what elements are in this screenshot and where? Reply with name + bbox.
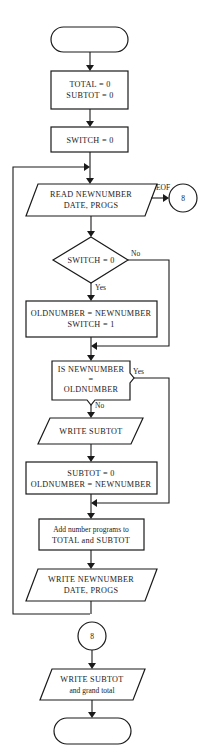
write-record-line1: WRITE NEWNUMBER — [48, 575, 134, 584]
arrow-head — [88, 712, 96, 718]
compare-no-label: No — [95, 401, 104, 410]
read-input-line2: DATE, PROGS — [64, 201, 119, 210]
compare-yes-label: Yes — [133, 367, 144, 376]
arrow-head — [91, 342, 97, 350]
write-subtot-line1: WRITE SUBTOT — [59, 427, 122, 436]
reset-subtot-line1: SUBTOT = 0 — [67, 469, 114, 478]
compare-decision-box: IS NEWNUMBER = OLDNUMBER — [52, 361, 134, 405]
set-old-box: OLDNUMBER = NEWNUMBER SWITCH = 1 — [26, 301, 157, 337]
switch-no-label: No — [131, 249, 140, 258]
eof-label: EOF — [156, 183, 170, 192]
set-old-line2: SWITCH = 1 — [67, 320, 114, 329]
arrow-head — [87, 295, 95, 301]
start-terminal — [51, 27, 128, 52]
arrow-head — [91, 499, 97, 507]
write-record-parallelogram: WRITE NEWNUMBER DATE, PROGS — [26, 569, 157, 601]
arrow-head — [163, 194, 169, 202]
reset-subtot-box: SUBTOT = 0 OLDNUMBER = NEWNUMBER — [26, 462, 157, 494]
arrow-head — [87, 355, 95, 361]
init-switch-line1: SWITCH = 0 — [66, 136, 113, 145]
reset-subtot-line2: OLDNUMBER = NEWNUMBER — [31, 480, 152, 489]
init-totals-line1: TOTAL = 0 — [69, 80, 110, 89]
write-subtot-parallelogram: WRITE SUBTOT — [38, 418, 143, 444]
arrow-head — [84, 163, 90, 171]
write-final-parallelogram: WRITE SUBTOT and grand total — [40, 669, 145, 700]
switch-decision-label: SWITCH = 0 — [67, 256, 114, 265]
read-input-parallelogram: READ NEWNUMBER DATE, PROGS — [26, 184, 157, 216]
eof-connector-label: 8 — [181, 194, 185, 203]
switch-yes-label: Yes — [95, 283, 106, 292]
entry-connector-circle: 8 — [78, 622, 106, 650]
arrow-head — [87, 513, 95, 519]
arrow-head — [86, 121, 94, 127]
arrow-head — [86, 65, 94, 71]
compare-line1: IS NEWNUMBER — [58, 365, 125, 374]
init-totals-box: TOTAL = 0 SUBTOT = 0 — [51, 71, 128, 109]
compare-line2: = — [89, 375, 94, 384]
add-programs-line2: TOTAL and SUBTOT — [52, 536, 130, 545]
eof-connector-circle: 8 — [169, 184, 197, 212]
init-switch-box: SWITCH = 0 — [51, 127, 128, 152]
arrow-head — [87, 456, 95, 462]
write-final-line1: WRITE SUBTOT — [60, 675, 123, 684]
add-programs-box: Add number programs to TOTAL and SUBTOT — [39, 519, 144, 550]
arrow-head — [87, 231, 95, 237]
init-totals-line2: SUBTOT = 0 — [66, 91, 113, 100]
compare-line3: OLDNUMBER — [64, 385, 119, 394]
arrow-head — [88, 663, 96, 669]
arrow-head — [86, 178, 94, 184]
write-final-line2: and grand total — [70, 686, 115, 695]
write-record-line2: DATE, PROGS — [64, 586, 119, 595]
switch-decision-diamond: SWITCH = 0 — [53, 237, 128, 283]
add-programs-line1: Add number programs to — [53, 525, 129, 534]
set-old-line1: OLDNUMBER = NEWNUMBER — [31, 309, 152, 318]
arrow-head — [87, 563, 95, 569]
read-input-line1: READ NEWNUMBER — [50, 190, 132, 199]
flowchart: TOTAL = 0 SUBTOT = 0 SWITCH = 0 READ NEW… — [0, 0, 205, 755]
entry-connector-label: 8 — [90, 632, 94, 641]
arrow-head — [87, 412, 95, 418]
end-terminal — [54, 718, 131, 744]
